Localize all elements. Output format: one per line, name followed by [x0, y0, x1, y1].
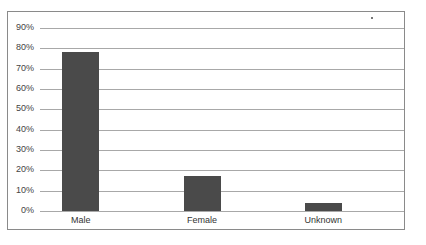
y-tick-label: 90% — [4, 22, 34, 32]
bar-unknown — [305, 203, 342, 211]
y-tick-label: 0% — [4, 205, 34, 215]
y-tick-label: 70% — [4, 63, 34, 73]
y-tick-label: 50% — [4, 103, 34, 113]
y-tick-label: 30% — [4, 144, 34, 154]
gridline — [40, 211, 404, 212]
y-tick-label: 10% — [4, 185, 34, 195]
y-tick-label: 20% — [4, 164, 34, 174]
bar-male — [62, 52, 99, 211]
x-tick-label: Female — [162, 215, 242, 225]
y-tick-label: 80% — [4, 42, 34, 52]
y-tick-label: 60% — [4, 83, 34, 93]
x-tick-label: Unknown — [283, 215, 363, 225]
gridline — [40, 48, 404, 49]
gridline — [40, 28, 404, 29]
artifact-dot — [371, 17, 373, 19]
bar-female — [184, 176, 221, 211]
plot-area: 0%10%20%30%40%50%60%70%80%90%MaleFemaleU… — [40, 28, 404, 211]
x-tick-label: Male — [41, 215, 121, 225]
y-tick-label: 40% — [4, 124, 34, 134]
